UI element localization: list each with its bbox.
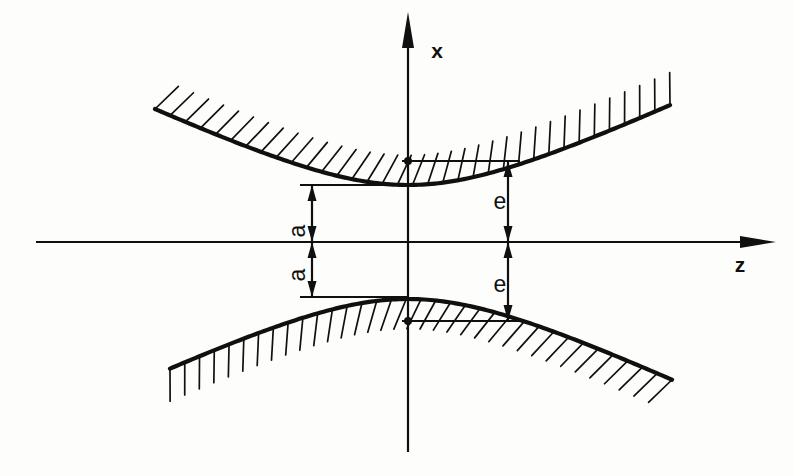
dimension-label-e-lower: e xyxy=(494,271,507,297)
marker-e-upper xyxy=(404,157,412,165)
hatch-tick xyxy=(579,110,580,143)
x-axis-label: x xyxy=(431,39,443,62)
hatch-tick xyxy=(243,339,244,372)
marker-e-lower xyxy=(404,317,412,325)
hyperbola-diagram: x z a a e e xyxy=(0,0,794,476)
hatch-tick xyxy=(594,104,595,137)
dimension-label-e-upper: e xyxy=(494,188,507,214)
z-axis-label: z xyxy=(735,253,746,276)
figure-background xyxy=(0,0,794,476)
figure-root: x z a a e e xyxy=(0,0,794,476)
hatch-tick xyxy=(228,344,229,377)
dimension-label-a-upper: a xyxy=(284,224,310,237)
dimension-label-a-lower: a xyxy=(284,268,310,281)
